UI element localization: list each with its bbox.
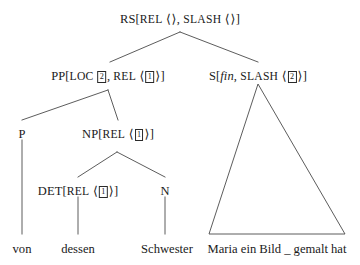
feature-name-rel: REL [102,128,125,141]
angle-open: ⟨ [139,69,145,83]
tree-edge-pp-np [108,90,118,120]
bracket-close: ] [236,12,240,26]
structure-tag-2: 2 [97,71,106,84]
node-category-p: P [18,127,25,141]
node-category-rs: RS [120,12,136,26]
angle-open: ⟨ [281,69,287,83]
syntax-tree-figure: RS[REL ⟨⟩, SLASH ⟨⟩] PP[LOC 2, REL ⟨1⟩] … [0,0,360,265]
terminal-word-von: von [13,243,32,256]
feature-name-slash: SLASH [240,70,278,83]
bracket-close: ] [303,69,307,83]
tree-edge-np-det [78,152,117,177]
tree-edge-root-s [180,32,258,62]
tree-node-n: N [160,185,169,198]
terminal-word-dessen: dessen [61,243,95,256]
structure-tag-1: 1 [135,129,144,142]
structure-tag-1: 1 [146,71,155,84]
node-category-np: NP [82,127,98,141]
terminal-word-schwester: Schwester [141,243,193,256]
bracket-close: ] [161,69,165,83]
s-triangle [209,84,345,234]
feature-fin: fin [220,69,234,83]
tree-node-np: NP[REL ⟨1⟩] [82,128,154,141]
angle-open: ⟨ [128,127,134,141]
tree-edge-pp-p [22,90,108,120]
feature-name-loc: LOC [70,70,94,83]
tree-node-s: S[fin, SLASH ⟨2⟩] [209,70,307,83]
tree-node-pp: PP[LOC 2, REL ⟨1⟩] [51,70,165,83]
tree-node-det: DET[REL ⟨1⟩] [38,185,118,198]
feature-name-rel: REL [140,13,163,26]
tree-node-rs: RS[REL ⟨⟩, SLASH ⟨⟩] [120,13,240,26]
feature-name-slash: SLASH [183,13,221,26]
structure-tag-2: 2 [288,71,297,84]
bracket-close: ] [114,184,118,198]
node-category-n: N [160,184,169,198]
node-category-s: S [209,69,216,83]
angle-open: ⟨ [93,184,99,198]
feature-name-rel: REL [67,185,90,198]
tree-edge-root-pp [110,32,180,62]
bracket-close: ] [150,127,154,141]
structure-tag-1: 1 [99,186,108,199]
node-category-pp: PP [51,69,65,83]
node-category-det: DET [38,184,63,198]
tree-node-p: P [18,128,25,141]
tree-edge-np-n [117,152,165,177]
feature-name-rel: REL [113,70,136,83]
tree-edges [0,0,360,265]
terminal-clause-string: Maria ein Bild _ gemalt hat [208,243,347,256]
